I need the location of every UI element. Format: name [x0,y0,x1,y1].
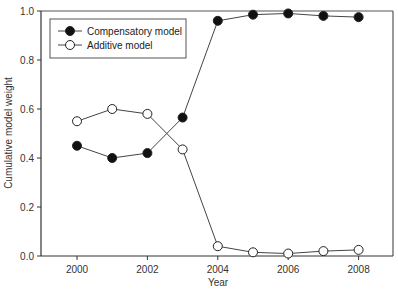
y-tick-label: 1.0 [20,6,34,17]
x-tick-label: 2008 [347,264,370,275]
y-tick-label: 0.8 [20,55,34,66]
filled-circle-marker [213,16,222,25]
legend: Compensatory modelAdditive model [50,19,186,58]
series-line-1 [77,109,359,254]
x-tick-label: 2006 [277,264,300,275]
y-tick-label: 0.4 [20,153,34,164]
open-circle-marker [108,105,117,114]
x-tick-label: 2004 [207,264,230,275]
open-circle-marker [213,242,222,251]
open-circle-marker [354,245,363,254]
y-tick-label: 0.0 [20,251,34,262]
legend-open-circle-icon [66,41,75,50]
y-tick-label: 0.6 [20,104,34,115]
filled-circle-marker [249,10,258,19]
y-axis-label: Cumulative model weight [3,77,14,189]
filled-circle-marker [319,11,328,20]
legend-label: Compensatory model [87,26,182,37]
filled-circle-marker [284,9,293,18]
y-tick-label: 0.2 [20,202,34,213]
open-circle-marker [284,249,293,258]
line-chart: 0.00.20.40.60.81.020002002200420062008 C… [0,0,398,293]
open-circle-marker [249,248,258,257]
open-circle-marker [143,109,152,118]
filled-circle-marker [143,149,152,158]
x-tick-label: 2000 [66,264,89,275]
x-tick-label: 2002 [136,264,159,275]
legend-label: Additive model [87,40,153,51]
filled-circle-marker [73,141,82,150]
filled-circle-marker [108,154,117,163]
open-circle-marker [319,247,328,256]
open-circle-marker [73,117,82,126]
filled-circle-marker [354,13,363,22]
legend-filled-circle-icon [66,27,75,36]
open-circle-marker [178,145,187,154]
filled-circle-marker [178,113,187,122]
x-axis-label: Year [208,277,229,288]
